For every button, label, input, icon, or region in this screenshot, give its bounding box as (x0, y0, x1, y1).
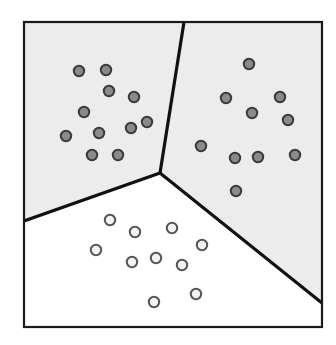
dark-data-point (244, 59, 254, 69)
dark-data-point (142, 117, 152, 127)
region-group (24, 22, 322, 327)
dark-data-point (101, 65, 111, 75)
dark-data-point (79, 107, 89, 117)
dark-data-point (104, 86, 114, 96)
dark-data-point (231, 186, 241, 196)
dark-data-point (74, 66, 84, 76)
dark-data-point (283, 115, 293, 125)
dark-data-point (230, 153, 240, 163)
light-data-point (167, 223, 177, 233)
light-data-point (191, 289, 201, 299)
light-data-point (127, 257, 137, 267)
dark-data-point (87, 150, 97, 160)
dark-data-point (275, 92, 285, 102)
light-data-point (130, 227, 140, 237)
dark-data-point (196, 141, 206, 151)
light-data-point (151, 253, 161, 263)
dark-data-point (290, 150, 300, 160)
light-data-point (177, 260, 187, 270)
light-data-point (105, 215, 115, 225)
dark-data-point (61, 131, 71, 141)
dark-data-point (253, 152, 263, 162)
dark-data-point (126, 123, 136, 133)
light-data-point (91, 245, 101, 255)
dark-data-point (221, 93, 231, 103)
light-data-point (149, 297, 159, 307)
light-data-point (197, 240, 207, 250)
dark-data-point (247, 108, 257, 118)
voronoi-cluster-figure (0, 0, 336, 345)
dark-data-point (129, 92, 139, 102)
dark-data-point (94, 128, 104, 138)
plot-canvas (0, 0, 336, 345)
dark-data-point (113, 150, 123, 160)
